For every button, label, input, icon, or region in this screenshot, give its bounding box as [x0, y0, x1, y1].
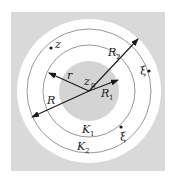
- label-center-z0: z: [83, 75, 90, 88]
- label-contour-k1-sub: 1: [90, 130, 94, 138]
- label-contour-k2-sub: 2: [85, 147, 89, 155]
- label-radius-r1: R: [100, 87, 109, 100]
- label-radius-r1-sub: 1: [109, 94, 113, 102]
- label-radius-r2: R: [107, 46, 116, 59]
- label-center-z0-sub: 0: [91, 82, 95, 90]
- label-radius-r-small: r: [67, 69, 73, 82]
- point-xi-bottom: [119, 125, 122, 128]
- annulus-diagram: z ξ ξ R 2 r z 0 R 1 R K 1 K 2: [0, 0, 179, 183]
- label-radius-r2-sub: 2: [116, 53, 120, 61]
- label-radius-r-big: R: [46, 94, 55, 107]
- label-point-z: z: [54, 38, 61, 51]
- point-z: [49, 46, 52, 49]
- point-xi-right: [147, 69, 150, 72]
